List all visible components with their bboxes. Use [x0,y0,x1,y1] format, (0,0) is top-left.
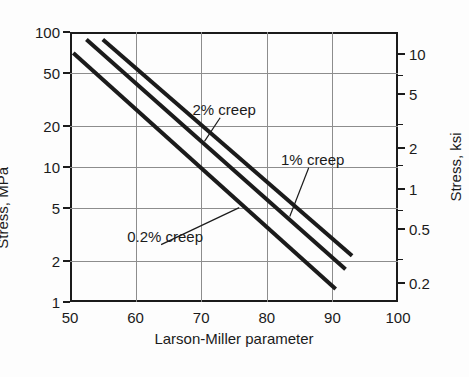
y-tick-left-2 [63,260,70,262]
chart-figure: 125102050100 0.20.512510 5060708090100 0… [0,0,469,377]
y-tick-label-left-50: 50 [43,64,60,81]
y-tick-label-left-5: 5 [52,199,60,216]
y-tick-right-minor-0.3 [398,259,403,260]
x-tick-label-60: 60 [127,309,144,326]
x-tick-label-80: 80 [258,309,275,326]
x-tick-label-90: 90 [324,309,341,326]
y-tick-label-right-5: 5 [409,86,417,103]
creep-curves [70,32,398,302]
curve-label-2-creep: 2% creep [192,100,255,117]
y-tick-right-0.5 [398,228,405,230]
x-tick-label-100: 100 [385,309,410,326]
y-tick-label-right-10: 10 [409,45,426,62]
y-tick-left-20 [63,125,70,127]
y-tick-label-left-10: 10 [43,159,60,176]
curve-0-2-creep [73,53,335,289]
y-tick-left-5 [63,207,70,209]
y-tick-right-minor-1.5 [398,165,403,166]
y-tick-right-0.2 [398,282,405,284]
y-tick-right-minor-7 [398,75,403,76]
curve-label-1-creep: 1% creep [281,150,344,167]
y-tick-left-10 [63,166,70,168]
y-tick-right-minor-0.7 [398,210,403,211]
y-axis-title-right-text: Stress, ksi [447,132,464,201]
y-tick-label-left-1: 1 [52,294,60,311]
y-tick-left-1 [63,301,70,303]
y-tick-right-2 [398,147,405,149]
y-tick-left-50 [63,72,70,74]
y-tick-label-right-0.2: 0.2 [409,275,430,292]
curve-label-0-2-creep: 0.2% creep [127,227,203,244]
y-tick-right-1 [398,188,405,190]
y-tick-label-right-0.5: 0.5 [409,221,430,238]
curve-2-creep [103,39,352,255]
y-tick-left-100 [63,31,70,33]
y-tick-label-right-2: 2 [409,140,417,157]
y-tick-label-left-20: 20 [43,118,60,135]
plot-area: 125102050100 0.20.512510 5060708090100 0… [70,32,398,302]
y-tick-right-5 [398,93,405,95]
x-tick-label-70: 70 [193,309,210,326]
y-tick-right-10 [398,53,405,55]
y-tick-label-left-2: 2 [52,253,60,270]
x-tick-label-50: 50 [62,309,79,326]
x-axis-title: Larson-Miller parameter [70,330,398,347]
y-tick-right-minor-3 [398,124,403,125]
y-tick-label-left-100: 100 [35,24,60,41]
y-axis-title-left-text: Stress, MPa [0,167,11,249]
y-tick-label-right-1: 1 [409,180,417,197]
